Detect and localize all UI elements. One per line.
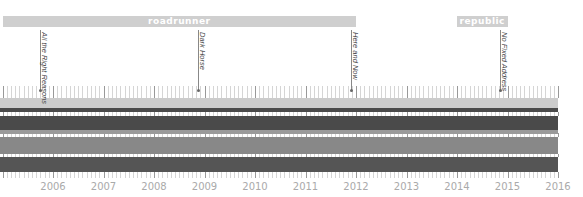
axis-tick [32, 86, 33, 98]
axis-tick [196, 172, 197, 178]
year-label: 2006 [40, 181, 65, 192]
axis-tick [474, 86, 475, 98]
axis-tick [179, 86, 180, 98]
axis-tick [247, 172, 248, 178]
axis-tick [335, 172, 336, 178]
axis-tick [276, 86, 277, 98]
axis-tick [369, 86, 370, 98]
axis-tick [533, 86, 534, 98]
axis-tick [415, 172, 416, 178]
axis-tick [66, 172, 67, 178]
axis-tick [116, 86, 117, 98]
axis-tick [428, 86, 429, 98]
axis-tick [129, 86, 130, 98]
axis-tick [364, 86, 365, 98]
axis-tick [209, 86, 210, 98]
axis-tick [242, 172, 243, 178]
axis-tick [486, 86, 487, 98]
axis-tick [217, 86, 218, 98]
axis-tick [234, 86, 235, 98]
axis-tick [419, 172, 420, 178]
axis-tick [78, 86, 79, 98]
axis-tick [272, 172, 273, 178]
axis-tick [24, 172, 25, 178]
axis-tick [259, 86, 260, 98]
axis-tick [40, 172, 41, 178]
year-label: 2015 [495, 181, 520, 192]
axis-tick [322, 172, 323, 178]
axis-tick [327, 86, 328, 98]
axis-tick [99, 86, 100, 98]
axis-tick [554, 86, 555, 98]
axis-tick [524, 86, 525, 98]
axis-tick [318, 86, 319, 98]
axis-tick [179, 172, 180, 178]
year-label: 2016 [545, 181, 570, 192]
band-4 [0, 130, 558, 134]
axis-tick [545, 172, 546, 178]
axis-tick [449, 172, 450, 178]
axis-tick [407, 86, 408, 98]
axis-tick [343, 172, 344, 178]
axis-tick [432, 86, 433, 98]
axis-tick [289, 86, 290, 98]
axis-tick [11, 172, 12, 178]
axis-tick [70, 86, 71, 98]
axis-tick [146, 86, 147, 98]
axis-tick [432, 172, 433, 178]
axis-tick [322, 86, 323, 98]
axis-tick [183, 86, 184, 98]
axis-tick [167, 86, 168, 98]
axis-tick [541, 172, 542, 178]
axis-tick [398, 172, 399, 178]
axis-tick [411, 86, 412, 98]
axis-tick [99, 172, 100, 178]
axis-tick [82, 172, 83, 178]
axis-tick [7, 172, 8, 178]
axis-tick [175, 86, 176, 98]
axis-tick [356, 172, 357, 178]
axis-tick [150, 86, 151, 98]
axis-tick [478, 172, 479, 178]
axis-tick [360, 172, 361, 178]
axis-tick [251, 172, 252, 178]
axis-tick [554, 172, 555, 178]
axis-tick [394, 86, 395, 98]
axis-tick [369, 172, 370, 178]
axis-tick [478, 86, 479, 98]
axis-tick [133, 86, 134, 98]
axis-tick [436, 86, 437, 98]
axis-tick [512, 86, 513, 98]
axis-tick [280, 86, 281, 98]
axis-tick [423, 86, 424, 98]
axis-tick [74, 86, 75, 98]
axis-tick [390, 86, 391, 98]
year-label: 2009 [192, 181, 217, 192]
axis-tick [112, 172, 113, 178]
axis-tick [3, 172, 4, 178]
axis-tick [15, 172, 16, 178]
axis-tick [209, 172, 210, 178]
axis-tick [104, 172, 105, 178]
axis-tick [449, 86, 450, 98]
axis-tick [162, 86, 163, 98]
axis-tick [213, 172, 214, 178]
axis-tick [154, 86, 155, 98]
axis-tick [32, 172, 33, 178]
axis-tick [440, 86, 441, 98]
axis-tick [213, 86, 214, 98]
axis-tick [162, 172, 163, 178]
axis-tick [482, 86, 483, 98]
axis-tick [364, 172, 365, 178]
axis-tick [226, 86, 227, 98]
axis-tick [520, 86, 521, 98]
axis-tick [234, 172, 235, 178]
axis-tick [503, 172, 504, 178]
axis-tick [470, 86, 471, 98]
axis-tick [385, 172, 386, 178]
axis-tick [268, 86, 269, 98]
axis-tick [91, 172, 92, 178]
axis-tick [141, 172, 142, 178]
axis-tick [289, 172, 290, 178]
axis-tick [486, 172, 487, 178]
